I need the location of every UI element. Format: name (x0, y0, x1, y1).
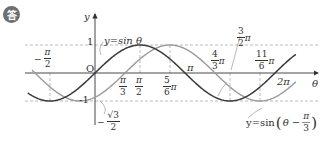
y-min-label: -1 (79, 95, 89, 105)
tick-eleven-sixth-pi: 116 π (255, 50, 274, 71)
tick-pi-third: π3 (119, 76, 127, 97)
tick-neg-pi-half: − π2 (34, 48, 51, 69)
tick-three-half-pi: 32 π (237, 27, 251, 48)
tick-five-sixth-pi: 56 π (163, 76, 177, 97)
y-max-label: 1 (87, 37, 93, 47)
tick-two-pi: 2π (277, 77, 290, 87)
origin-label: O (86, 64, 94, 74)
shifted-curve-label: y=sin ( θ − π 3 ) (246, 112, 317, 133)
tick-neg-sqrt3-half: − √32 (97, 111, 120, 132)
tick-four-third-pi: 43 π (211, 50, 225, 71)
tick-pi-half: π2 (135, 76, 143, 97)
x-axis-label: θ (312, 79, 318, 89)
y-axis-label: y (84, 12, 90, 22)
sin-curve-label: y=sin θ (104, 36, 142, 46)
tick-pi: π (187, 63, 194, 73)
